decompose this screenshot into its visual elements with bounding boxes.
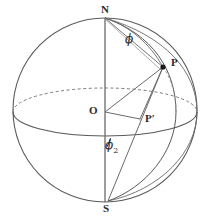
chord-s-to-p	[108, 67, 163, 201]
fraction-denominator: 2	[113, 146, 118, 155]
sphere-figure-svg	[0, 0, 209, 220]
label-north-pole: N	[101, 4, 109, 15]
radius-o-to-p-prime	[105, 112, 140, 119]
fraction-phi-over-two: ϕ2	[105, 139, 118, 151]
label-angle-phi-half: ϕ2	[105, 139, 118, 151]
point-p-marker	[160, 64, 165, 69]
label-point-p: P	[171, 57, 178, 68]
label-angle-phi: ϕ	[125, 33, 133, 45]
label-point-p-prime: P′	[145, 113, 155, 124]
sphere-diagram: N S O P P′ ϕ ϕ2	[0, 0, 209, 220]
label-origin: O	[89, 105, 98, 116]
chord-n-to-p	[105, 18, 163, 67]
label-south-pole: S	[103, 203, 109, 214]
